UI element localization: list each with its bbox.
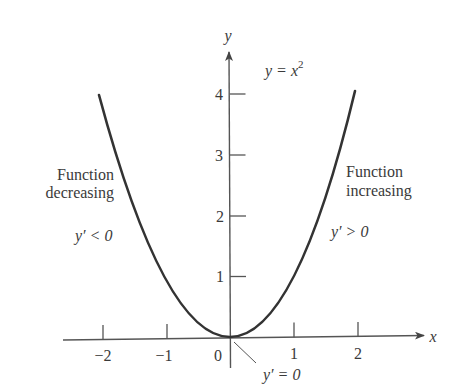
decreasing-label-line1: Function bbox=[57, 166, 114, 183]
decreasing-derivative-label: y′ < 0 bbox=[73, 227, 112, 245]
y-axis-label: y bbox=[222, 27, 232, 45]
x-tick-label-1: 1 bbox=[290, 345, 298, 362]
equation-lhs: y = x bbox=[263, 62, 298, 80]
zero-derivative-label: y′ = 0 bbox=[261, 366, 300, 384]
parabola-curve bbox=[99, 91, 355, 337]
x-tick-label--2: −2 bbox=[94, 347, 111, 364]
increasing-label-line2: increasing bbox=[346, 182, 412, 200]
y-tick-label-3: 3 bbox=[215, 147, 223, 164]
y-tick-label-1: 1 bbox=[216, 268, 224, 285]
x-tick-label-0: 0 bbox=[214, 347, 222, 364]
x-tick-label-2: 2 bbox=[354, 345, 362, 362]
zero-derivative-pointer bbox=[234, 342, 256, 363]
y-axis: 1 2 3 4 y bbox=[215, 27, 246, 368]
y-axis-line bbox=[229, 52, 231, 368]
y-tick-label-4: 4 bbox=[215, 86, 223, 103]
x-tick-label--1: −1 bbox=[155, 347, 172, 364]
equation-label: y = x2 bbox=[263, 58, 304, 80]
parabola-figure: −2 −1 0 1 2 x 1 2 3 4 y y = x2 Function … bbox=[0, 0, 471, 389]
increasing-label-line1: Function bbox=[346, 163, 403, 180]
increasing-derivative-label: y′ > 0 bbox=[329, 223, 368, 241]
x-axis-line bbox=[63, 336, 424, 341]
decreasing-label-line2: decreasing bbox=[46, 184, 114, 202]
equation-exponent: 2 bbox=[298, 58, 304, 70]
x-axis-label: x bbox=[428, 328, 436, 345]
y-tick-label-2: 2 bbox=[216, 208, 224, 225]
